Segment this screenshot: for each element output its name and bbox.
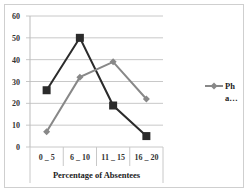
square-marker bbox=[142, 132, 150, 140]
x-tick-label: 16 _ 20 bbox=[134, 153, 158, 162]
x-tick-label: 11 _ 15 bbox=[101, 153, 125, 162]
x-axis-title: Percentage of Absentees bbox=[53, 170, 141, 180]
y-tick-label: 20 bbox=[12, 99, 20, 108]
x-tick-label: 0 _ 5 bbox=[39, 153, 55, 162]
legend-diamond-icon bbox=[211, 83, 218, 90]
legend-label: Ph bbox=[225, 81, 235, 91]
line-chart: 01020304050600 _ 56 _ 1011 _ 1516 _ 20Pe… bbox=[0, 0, 250, 194]
y-tick-label: 40 bbox=[12, 56, 20, 65]
square-marker bbox=[76, 34, 84, 42]
legend-label-overflow: a… bbox=[225, 93, 238, 103]
x-tick-label: 6 _ 10 bbox=[70, 153, 90, 162]
series-line bbox=[47, 38, 147, 136]
y-tick-label: 30 bbox=[12, 78, 20, 87]
y-tick-label: 60 bbox=[12, 12, 20, 21]
y-tick-label: 10 bbox=[12, 121, 20, 130]
y-tick-label: 0 bbox=[16, 143, 20, 152]
square-marker bbox=[43, 86, 51, 94]
square-marker bbox=[109, 102, 117, 110]
y-tick-label: 50 bbox=[12, 34, 20, 43]
